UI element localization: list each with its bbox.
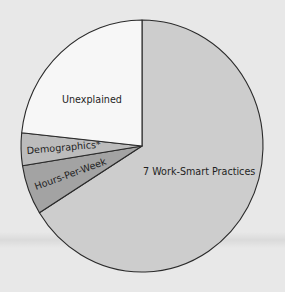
slice-unexplained	[22, 20, 142, 146]
pie-chart: Unexplained Demographics* Hours-Per-Week…	[0, 0, 285, 292]
label-unexplained: Unexplained	[62, 94, 122, 105]
label-work-smart-practices: 7 Work-Smart Practices	[143, 166, 255, 177]
